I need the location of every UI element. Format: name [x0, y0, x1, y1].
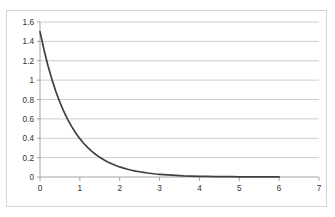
chart-container: 00.20.40.60.811.21.41.601234567: [6, 10, 327, 207]
x-axis-tick-label: 5: [237, 184, 242, 193]
plot-area: 00.20.40.60.811.21.41.601234567: [7, 11, 326, 206]
y-axis-tick-label: 1.6: [23, 18, 35, 27]
y-axis-tick-label: 0.8: [23, 96, 35, 105]
x-axis-tick-label: 0: [38, 184, 43, 193]
x-axis-tick-label: 2: [117, 184, 122, 193]
x-axis-tick-label: 3: [157, 184, 162, 193]
chart-canvas: 00.20.40.60.811.21.41.601234567: [7, 11, 328, 208]
data-series-line: [40, 32, 279, 177]
y-axis-tick-label: 1.4: [23, 37, 35, 46]
y-axis-tick-label: 1.2: [23, 57, 35, 66]
x-axis-tick-label: 6: [277, 184, 282, 193]
y-axis-tick-label: 0.2: [23, 154, 35, 163]
x-axis-tick-label: 7: [317, 184, 322, 193]
y-axis-tick-label: 0.4: [23, 134, 35, 143]
y-axis-tick-label: 1: [29, 76, 34, 85]
x-axis-tick-label: 1: [78, 184, 83, 193]
y-axis-tick-label: 0.6: [23, 115, 35, 124]
y-axis-tick-label: 0: [29, 173, 34, 182]
x-axis-tick-label: 4: [197, 184, 202, 193]
